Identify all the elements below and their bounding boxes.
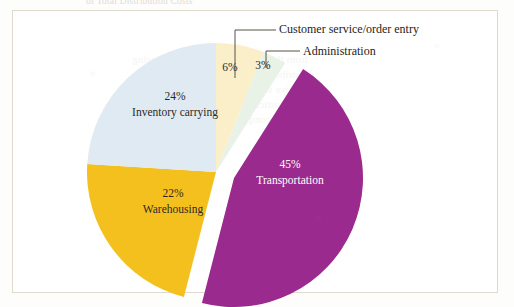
- chart-frame: [12, 10, 498, 293]
- slice-value-administration: 3%: [249, 59, 277, 71]
- callout-label-administration: Administration: [303, 44, 376, 59]
- slice-value-customer-service: 6%: [215, 61, 245, 73]
- slice-label-warehousing: 22% Warehousing: [112, 185, 234, 217]
- pie-chart-figure: of Total Distribution Costs from the pre…: [0, 0, 514, 307]
- slice-value-transportation: 45%: [231, 156, 349, 172]
- slice-value-inventory-carrying: 24%: [110, 88, 240, 104]
- slice-name-transportation: Transportation: [231, 172, 349, 188]
- slice-label-transportation: 45% Transportation: [231, 156, 349, 188]
- slice-label-inventory-carrying: 24% Inventory carrying: [110, 88, 240, 120]
- callout-label-customer-service: Customer service/order entry: [279, 22, 419, 37]
- slice-name-warehousing: Warehousing: [112, 201, 234, 217]
- clipped-caption: of Total Distribution Costs: [86, 0, 386, 6]
- slice-name-inventory-carrying: Inventory carrying: [110, 104, 240, 120]
- slice-value-warehousing: 22%: [112, 185, 234, 201]
